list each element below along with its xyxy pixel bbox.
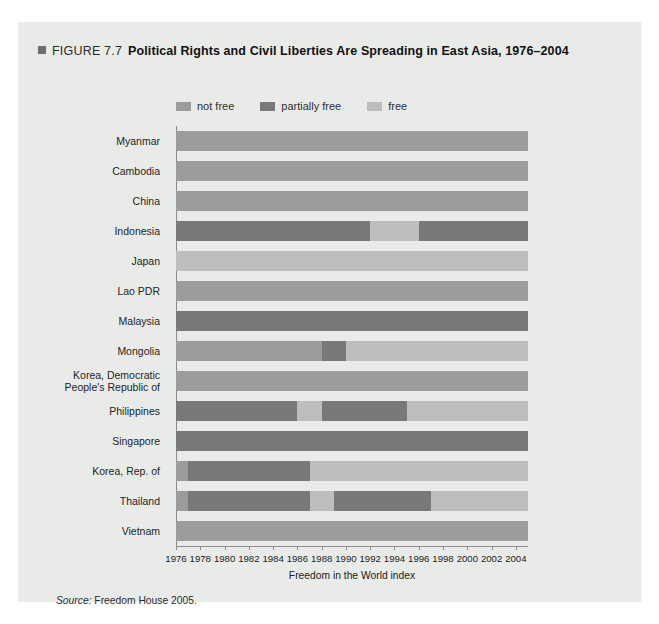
y-axis-label-line: Malaysia xyxy=(20,315,160,327)
legend-label: partially free xyxy=(281,100,341,112)
page-title: Political Rights and Civil Liberties Are… xyxy=(128,44,569,58)
legend-item-not-free: not free xyxy=(176,100,234,112)
bar-row[interactable] xyxy=(176,491,528,511)
bar-row[interactable] xyxy=(176,461,528,481)
x-axis-tick-label: 1986 xyxy=(287,553,308,564)
y-axis-label: Myanmar xyxy=(20,135,160,147)
bar-segment-free xyxy=(370,221,419,241)
bar-row[interactable] xyxy=(176,131,528,151)
bar-segment-free xyxy=(346,341,528,361)
y-axis-label-line: Thailand xyxy=(20,495,160,507)
bar-segment-free xyxy=(407,401,528,421)
x-axis-tick xyxy=(394,546,395,550)
y-axis-label: Vietnam xyxy=(20,525,160,537)
bar-segment-partially-free xyxy=(188,461,309,481)
y-axis-labels: MyanmarCambodiaChinaIndonesiaJapanLao PD… xyxy=(18,126,168,546)
source-word: Source: xyxy=(56,595,92,606)
y-axis-label: Thailand xyxy=(20,495,160,507)
bar-row[interactable] xyxy=(176,431,528,451)
x-axis-tick-label: 2000 xyxy=(457,553,478,564)
legend-item-partially-free: partially free xyxy=(260,100,341,112)
bar-segment-partially-free xyxy=(176,431,528,451)
y-axis-line xyxy=(176,126,177,546)
bar-row[interactable] xyxy=(176,341,528,361)
x-axis-tick xyxy=(273,546,274,550)
bar-segment-not-free xyxy=(176,521,528,541)
bar-row[interactable] xyxy=(176,311,528,331)
x-axis-tick-label: 2004 xyxy=(505,553,526,564)
bar-row[interactable] xyxy=(176,401,528,421)
bar-row[interactable] xyxy=(176,221,528,241)
x-axis-title: Freedom in the World index xyxy=(176,570,528,581)
y-axis-label-line: Korea, Rep. of xyxy=(20,465,160,477)
bar-segment-free xyxy=(310,491,334,511)
x-axis-tick xyxy=(297,546,298,550)
x-axis-tick xyxy=(176,546,177,550)
y-axis-label-line: Korea, Democratic xyxy=(20,369,160,381)
legend-label: free xyxy=(388,100,407,112)
x-axis-tick-label: 1990 xyxy=(335,553,356,564)
y-axis-label-line: Indonesia xyxy=(20,225,160,237)
figure-title-row: FIGURE 7.7 Political Rights and Civil Li… xyxy=(38,44,627,58)
x-axis-tick xyxy=(443,546,444,550)
x-axis-tick-label: 1978 xyxy=(190,553,211,564)
bar-segment-partially-free xyxy=(176,221,370,241)
bar-segment-not-free xyxy=(176,341,322,361)
y-axis-label-line: China xyxy=(20,195,160,207)
x-axis-line: 1976197819801982198419861988199019921994… xyxy=(176,546,528,547)
bar-segment-not-free xyxy=(176,371,528,391)
x-axis-tick xyxy=(419,546,420,550)
figure-bullet-icon xyxy=(38,46,46,54)
legend-swatch-icon xyxy=(367,102,382,111)
y-axis-label-line: Lao PDR xyxy=(20,285,160,297)
y-axis-label-line: Myanmar xyxy=(20,135,160,147)
bar-segment-free xyxy=(431,491,528,511)
legend-item-free: free xyxy=(367,100,407,112)
x-axis-tick xyxy=(467,546,468,550)
x-axis-tick xyxy=(322,546,323,550)
bar-segment-partially-free xyxy=(176,401,297,421)
y-axis-label: Singapore xyxy=(20,435,160,447)
bar-segment-not-free xyxy=(176,461,188,481)
bar-row[interactable] xyxy=(176,371,528,391)
x-axis-tick-label: 1984 xyxy=(262,553,283,564)
bar-segment-partially-free xyxy=(419,221,528,241)
y-axis-label: China xyxy=(20,195,160,207)
bar-row[interactable] xyxy=(176,521,528,541)
y-axis-label: Japan xyxy=(20,255,160,267)
figure-number: FIGURE 7.7 xyxy=(52,44,122,58)
legend-swatch-icon xyxy=(176,102,191,111)
bar-row[interactable] xyxy=(176,161,528,181)
y-axis-label: Malaysia xyxy=(20,315,160,327)
bar-row[interactable] xyxy=(176,281,528,301)
x-axis-tick-label: 1988 xyxy=(311,553,332,564)
x-axis-tick xyxy=(346,546,347,550)
bar-segment-not-free xyxy=(176,281,528,301)
source-text: Freedom House 2005. xyxy=(92,595,197,606)
bar-segment-partially-free xyxy=(322,401,407,421)
legend-label: not free xyxy=(197,100,234,112)
x-axis-tick-label: 1976 xyxy=(165,553,186,564)
y-axis-label: Indonesia xyxy=(20,225,160,237)
x-axis-tick-label: 1980 xyxy=(214,553,235,564)
chart-legend: not freepartially freefree xyxy=(176,100,407,112)
x-axis-tick-label: 1992 xyxy=(360,553,381,564)
x-axis-tick-label: 1982 xyxy=(238,553,259,564)
x-axis-tick xyxy=(370,546,371,550)
y-axis-label: Philippines xyxy=(20,405,160,417)
y-axis-label: Korea, Rep. of xyxy=(20,465,160,477)
x-axis-tick xyxy=(249,546,250,550)
plot-background xyxy=(176,126,528,546)
x-axis-tick xyxy=(200,546,201,550)
x-axis-tick xyxy=(492,546,493,550)
bar-segment-free xyxy=(297,401,321,421)
bar-segment-free xyxy=(176,251,528,271)
x-axis-tick-label: 1996 xyxy=(408,553,429,564)
bar-row[interactable] xyxy=(176,191,528,211)
bar-segment-free xyxy=(310,461,528,481)
bar-row[interactable] xyxy=(176,251,528,271)
x-axis-tick-label: 2002 xyxy=(481,553,502,564)
y-axis-label: Korea, DemocraticPeople's Republic of xyxy=(20,369,160,393)
y-axis-label-line: People's Republic of xyxy=(20,381,160,393)
bar-segment-not-free xyxy=(176,161,528,181)
